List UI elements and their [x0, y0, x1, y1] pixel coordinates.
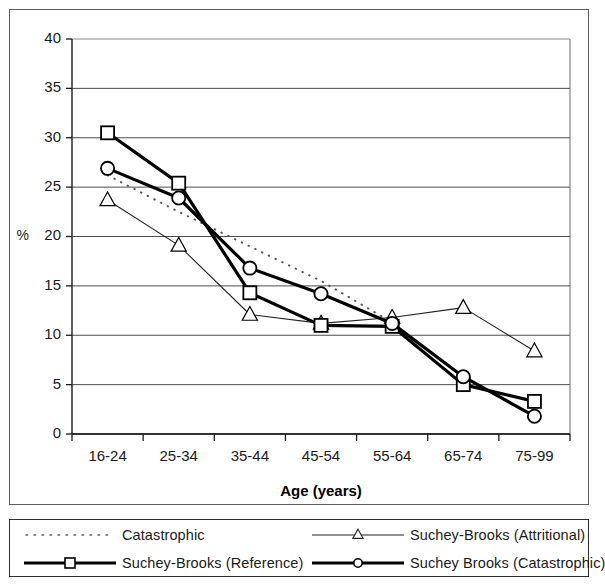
data-point-marker-circle — [101, 162, 114, 175]
x-axis-ticks-group — [72, 434, 570, 441]
legend-row-2: Suchey-Brooks (Reference) Suchey Brooks … — [10, 548, 588, 577]
x-axis-tick-label: 25-34 — [160, 447, 198, 464]
legend-item-catastrophic[interactable]: Catastrophic — [22, 520, 205, 549]
x-axis-tick-label: 55-64 — [373, 447, 411, 464]
chart-plot-panel: 0510152025303540 % 16-2425-3435-4445-545… — [9, 9, 589, 505]
legend-label-reference: Suchey-Brooks (Reference) — [122, 555, 303, 571]
y-axis-tick-labels-group: 0510152025303540 — [44, 29, 61, 441]
data-point-marker-square — [315, 319, 328, 332]
y-axis-tick-label: 40 — [44, 29, 61, 46]
legend-row-1: Catastrophic Suchey-Brooks (Attritional) — [10, 520, 588, 549]
legend-item-suchey-brooks-reference[interactable]: Suchey-Brooks (Reference) — [22, 548, 303, 577]
y-axis-tick-label: 0 — [53, 424, 61, 441]
series-line — [108, 133, 535, 402]
y-axis-tick-label: 35 — [44, 78, 61, 95]
legend-label-catastrophic: Catastrophic — [122, 527, 205, 543]
legend-swatch-sb-catastrophic — [310, 554, 406, 572]
data-point-marker-circle — [172, 191, 185, 204]
y-axis-ticks-group — [66, 39, 72, 434]
legend-swatch-catastrophic — [22, 526, 118, 544]
y-axis-tick-label: 10 — [44, 325, 61, 342]
y-axis-tick-label: 30 — [44, 128, 61, 145]
data-point-marker-circle — [314, 287, 327, 300]
legend-swatch-attritional — [310, 526, 406, 544]
legend-label-attritional: Suchey-Brooks (Attritional) — [410, 527, 585, 543]
legend-item-suchey-brooks-catastrophic[interactable]: Suchey Brooks (Catastrophic) — [310, 548, 605, 577]
y-axis-tick-label: 15 — [44, 276, 61, 293]
data-point-marker-square — [101, 126, 114, 139]
data-point-marker-triangle — [171, 237, 186, 251]
x-axis-tick-label: 16-24 — [88, 447, 126, 464]
x-axis-tick-label: 65-74 — [444, 447, 482, 464]
data-point-marker-triangle — [527, 343, 542, 357]
series-line — [108, 175, 393, 322]
series-catastrophic — [108, 175, 393, 322]
x-axis-title: Age (years) — [280, 482, 362, 499]
data-point-marker-square — [172, 177, 185, 190]
chart-legend: Catastrophic Suchey-Brooks (Attritional)… — [9, 519, 589, 577]
data-point-marker-square — [528, 395, 541, 408]
data-point-marker-circle — [457, 370, 470, 383]
data-series-layer — [100, 126, 542, 423]
series-suchey-brooks-catastrophic — [101, 162, 541, 423]
series-suchey-brooks-reference — [101, 126, 541, 408]
y-axis-tick-label: 25 — [44, 177, 61, 194]
data-point-marker-triangle — [456, 300, 471, 314]
gridlines-group — [72, 39, 570, 434]
data-point-marker-triangle — [242, 307, 257, 321]
x-axis-tick-label: 75-99 — [515, 447, 553, 464]
legend-item-suchey-brooks-attritional[interactable]: Suchey-Brooks (Attritional) — [310, 520, 585, 549]
y-axis-tick-label: 20 — [44, 226, 61, 243]
data-point-marker-circle — [243, 262, 256, 275]
x-axis-tick-labels-group: 16-2425-3435-4445-5455-6465-7475-99 — [88, 447, 553, 464]
data-point-marker-circle — [386, 317, 399, 330]
legend-swatch-reference — [22, 554, 118, 572]
x-axis-tick-label: 35-44 — [231, 447, 269, 464]
data-point-marker-square — [243, 286, 256, 299]
x-axis-tick-label: 45-54 — [302, 447, 340, 464]
legend-label-sb-catastrophic: Suchey Brooks (Catastrophic) — [410, 555, 605, 571]
y-axis-tick-label: 5 — [53, 375, 61, 392]
y-axis-label: % — [17, 227, 29, 243]
data-point-marker-triangle — [100, 192, 115, 206]
line-chart-svg: 0510152025303540 % 16-2425-3435-4445-545… — [10, 10, 588, 504]
data-point-marker-circle — [528, 410, 541, 423]
